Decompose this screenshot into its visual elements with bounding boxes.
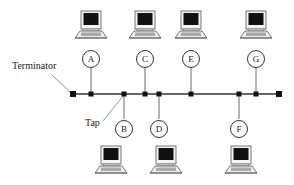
station-node-E: E	[182, 50, 200, 68]
station-node-B: B	[115, 120, 133, 138]
computer-B-icon	[95, 146, 127, 173]
station-node-A: A	[82, 50, 100, 68]
tap-A	[89, 66, 94, 97]
computer-E-icon	[175, 11, 207, 38]
tap-B	[122, 92, 127, 120]
tap-E	[189, 66, 194, 97]
bus-diagram	[0, 0, 294, 185]
station-node-F: F	[230, 120, 248, 138]
tap-label: Tap	[85, 117, 100, 128]
terminator-label: Terminator	[12, 60, 56, 71]
computer-D-icon	[150, 146, 182, 173]
station-node-G: G	[247, 50, 265, 68]
tap-D	[157, 92, 162, 120]
computer-G-icon	[240, 11, 272, 38]
tap-G	[254, 66, 259, 97]
computer-A-icon	[75, 11, 107, 38]
station-node-D: D	[150, 120, 168, 138]
terminator-left	[70, 91, 76, 97]
computer-F-icon	[225, 146, 257, 173]
terminator-right	[276, 91, 282, 97]
station-node-C: C	[136, 50, 154, 68]
computer-C-icon	[129, 11, 161, 38]
terminator-pointer	[52, 75, 70, 92]
tap-pointer	[103, 96, 123, 121]
tap-F	[237, 92, 242, 120]
tap-C	[143, 66, 148, 97]
